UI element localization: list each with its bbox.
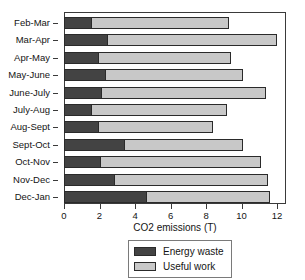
bar-row [64, 139, 243, 151]
bar-segment-energy-waste [64, 174, 114, 186]
bar-segment-energy-waste [64, 191, 146, 203]
y-axis-tick-9 [53, 180, 58, 181]
x-axis-tick-label-6: 12 [272, 210, 283, 221]
y-axis-label-10: Dec-Jan [15, 191, 50, 203]
y-axis-label-3: May-June [8, 69, 50, 81]
x-axis-tick-mark-1 [100, 204, 101, 209]
bar-row [64, 87, 266, 99]
bar-segment-energy-waste [64, 69, 105, 81]
bar-segment-energy-waste [64, 156, 100, 168]
legend-item-useful-work: Useful work [134, 259, 224, 274]
y-axis-tick-10 [53, 197, 58, 198]
y-axis-label-4: June-July [9, 87, 50, 99]
y-axis-label-6: Aug-Sept [10, 121, 50, 133]
bar-row [64, 69, 243, 81]
bar-segment-useful-work [91, 104, 228, 116]
y-axis-tick-0 [53, 23, 58, 24]
x-axis-tick-mark-2 [135, 204, 136, 209]
x-axis-tick-mark-6 [277, 204, 278, 209]
chart-legend: Energy waste Useful work [128, 240, 232, 278]
y-axis-tick-8 [53, 162, 58, 163]
x-axis-tick-mark-5 [242, 204, 243, 209]
x-axis-tick-label-0: 0 [61, 210, 66, 221]
bar-segment-energy-waste [64, 52, 98, 64]
bar-segment-useful-work [114, 174, 269, 186]
bar-segment-energy-waste [64, 139, 124, 151]
bar-row [64, 191, 270, 203]
y-axis-label-5: July-Aug [13, 104, 50, 116]
bar-segment-useful-work [107, 34, 277, 46]
bar-segment-useful-work [98, 52, 231, 64]
bar-row [64, 34, 277, 46]
bar-segment-useful-work [105, 69, 244, 81]
bar-segment-energy-waste [64, 34, 107, 46]
bar-segment-energy-waste [64, 121, 98, 133]
bar-segment-useful-work [98, 121, 213, 133]
x-axis-title: CO2 emissions (T) [64, 222, 286, 233]
y-axis-label-9: Nov-Dec [13, 174, 50, 186]
bar-segment-useful-work [91, 17, 230, 29]
y-axis-tick-5 [53, 110, 58, 111]
y-axis-label-2: Apr-May [14, 52, 50, 64]
y-axis-tick-1 [53, 40, 58, 41]
bar-row [64, 104, 227, 116]
bar-row [64, 156, 261, 168]
y-axis-label-8: Oct-Nov [15, 156, 50, 168]
x-axis-tick-label-5: 10 [236, 210, 247, 221]
bar-segment-energy-waste [64, 104, 91, 116]
bar-segment-useful-work [101, 87, 266, 99]
x-axis-tick-mark-4 [206, 204, 207, 209]
bar-row [64, 17, 229, 29]
co2-emissions-stacked-bar-chart: Feb-MarMar-AprApr-MayMay-JuneJune-JulyJu… [0, 0, 305, 280]
y-axis-tick-6 [53, 127, 58, 128]
bar-segment-useful-work [124, 139, 243, 151]
bar-row [64, 121, 213, 133]
legend-swatch-useful-work [134, 262, 156, 271]
bar-segment-energy-waste [64, 87, 101, 99]
y-axis-category-labels: Feb-MarMar-AprApr-MayMay-JuneJune-JulyJu… [0, 12, 58, 204]
bar-segment-useful-work [100, 156, 262, 168]
x-axis-tick-label-3: 6 [168, 210, 173, 221]
x-axis-tick-label-4: 8 [203, 210, 208, 221]
x-axis-tick-mark-3 [171, 204, 172, 209]
legend-label-energy-waste: Energy waste [163, 246, 224, 258]
x-axis-tick-label-2: 4 [132, 210, 137, 221]
y-axis-label-1: Mar-Apr [16, 34, 50, 46]
y-axis-tick-3 [53, 75, 58, 76]
bar-row [64, 174, 268, 186]
y-axis-tick-4 [53, 93, 58, 94]
bars-container [64, 12, 286, 204]
bar-segment-energy-waste [64, 17, 91, 29]
legend-label-useful-work: Useful work [163, 261, 215, 273]
bar-segment-useful-work [146, 191, 270, 203]
y-axis-label-0: Feb-Mar [14, 17, 50, 29]
legend-item-energy-waste: Energy waste [134, 244, 224, 259]
x-axis-tick-label-1: 2 [97, 210, 102, 221]
legend-swatch-energy-waste [134, 247, 156, 256]
y-axis-label-7: Sept-Oct [13, 139, 51, 151]
x-axis-tick-mark-0 [64, 204, 65, 209]
y-axis-tick-7 [53, 145, 58, 146]
y-axis-tick-2 [53, 58, 58, 59]
bar-row [64, 52, 231, 64]
